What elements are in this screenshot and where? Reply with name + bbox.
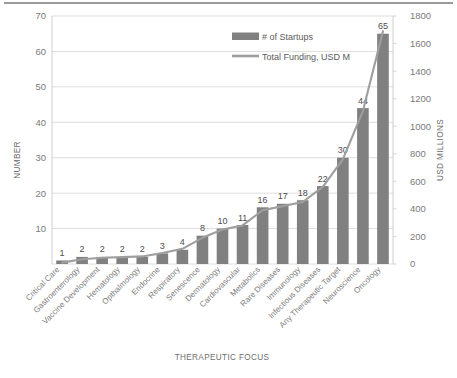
svg-text:17: 17: [278, 191, 288, 201]
y-axis-right-title: USD MILLIONS: [436, 119, 445, 181]
svg-text:60: 60: [35, 46, 46, 57]
y-axis-right-ticks: 020040060080010001200140016001800: [393, 10, 431, 269]
svg-text:50: 50: [35, 81, 46, 92]
legend-label: Total Funding, USD M: [262, 52, 350, 62]
svg-text:65: 65: [378, 21, 388, 31]
chart-container: 10203040506070 0200400600800100012001400…: [0, 0, 457, 378]
svg-text:1200: 1200: [410, 93, 431, 104]
svg-text:0: 0: [410, 258, 415, 269]
svg-text:4: 4: [180, 237, 185, 247]
window-top-rule: [4, 2, 453, 4]
svg-text:16: 16: [258, 195, 268, 205]
svg-text:2: 2: [120, 244, 125, 254]
legend: # of StartupsTotal Funding, USD M: [232, 32, 350, 62]
svg-text:1400: 1400: [410, 66, 431, 77]
svg-text:8: 8: [200, 223, 205, 233]
svg-text:2: 2: [140, 244, 145, 254]
svg-text:70: 70: [35, 10, 46, 21]
svg-text:800: 800: [410, 148, 426, 159]
svg-text:18: 18: [298, 188, 308, 198]
svg-text:3: 3: [160, 241, 165, 251]
svg-text:400: 400: [410, 203, 426, 214]
svg-text:2: 2: [80, 244, 85, 254]
svg-text:11: 11: [238, 213, 247, 223]
svg-text:1000: 1000: [410, 121, 431, 132]
funding-line: [62, 31, 383, 262]
svg-text:200: 200: [410, 231, 426, 242]
y-axis-left-title: NUMBER: [13, 141, 22, 179]
x-axis-title: THERAPEUTIC FOCUS: [175, 353, 270, 362]
startups-funding-combo-chart: 10203040506070 0200400600800100012001400…: [0, 0, 457, 378]
svg-text:600: 600: [410, 176, 426, 187]
svg-text:10: 10: [217, 216, 227, 226]
legend-label: # of Startups: [262, 32, 314, 42]
svg-text:1: 1: [60, 248, 65, 258]
svg-text:10: 10: [35, 223, 46, 234]
x-axis-category-labels: Critical CareGastroenterologyVaccine Dev…: [24, 265, 382, 330]
svg-text:30: 30: [35, 152, 46, 163]
svg-text:1800: 1800: [410, 10, 431, 21]
svg-text:40: 40: [35, 117, 46, 128]
y-axis-left-ticks: 10203040506070: [35, 10, 46, 234]
svg-text:1600: 1600: [410, 38, 431, 49]
svg-text:2: 2: [100, 244, 105, 254]
svg-text:20: 20: [35, 188, 46, 199]
